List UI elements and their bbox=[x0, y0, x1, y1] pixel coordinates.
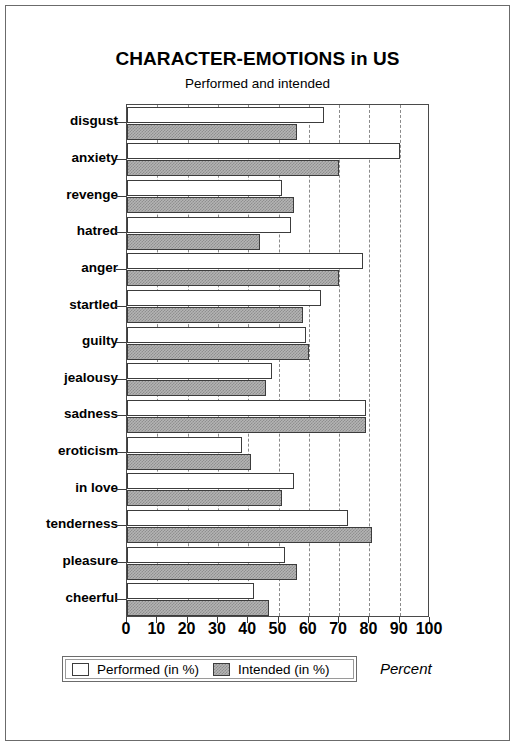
bar-intended bbox=[127, 197, 294, 213]
page-title: CHARACTER-EMOTIONS in US bbox=[0, 48, 515, 70]
category-label-startled: startled bbox=[8, 297, 118, 312]
category-label-anger: anger bbox=[8, 260, 118, 275]
legend-label: Performed (in %) bbox=[97, 662, 199, 677]
bar-performed bbox=[127, 437, 242, 453]
legend-inner: Performed (in %)Intended (in %) bbox=[65, 659, 354, 679]
x-axis-labels: 0102030405060708090100 bbox=[0, 620, 515, 646]
bar-performed bbox=[127, 253, 363, 269]
bar-intended bbox=[127, 490, 282, 506]
category-label-pleasure: pleasure bbox=[8, 553, 118, 568]
hatched-swatch bbox=[213, 663, 230, 676]
bar-intended bbox=[127, 124, 297, 140]
bar-performed bbox=[127, 143, 400, 159]
bar-performed bbox=[127, 290, 321, 306]
bar-intended bbox=[127, 417, 366, 433]
category-label-revenge: revenge bbox=[8, 187, 118, 202]
hollow-swatch bbox=[72, 663, 89, 676]
category-label-sadness: sadness bbox=[8, 406, 118, 421]
bar-performed bbox=[127, 510, 348, 526]
category-label-tenderness: tenderness bbox=[8, 516, 118, 531]
bar-performed bbox=[127, 107, 324, 123]
bar-performed bbox=[127, 327, 306, 343]
x-axis-title: Percent bbox=[380, 660, 432, 677]
category-axis: disgustanxietyrevengehatredangerstartled… bbox=[4, 104, 118, 617]
bar-intended bbox=[127, 234, 260, 250]
category-label-eroticism: eroticism bbox=[8, 443, 118, 458]
category-label-cheerful: cheerful bbox=[8, 590, 118, 605]
bar-intended bbox=[127, 454, 251, 470]
bar-performed bbox=[127, 363, 272, 379]
bar-intended bbox=[127, 307, 303, 323]
chart-subtitle: Performed and intended bbox=[0, 76, 515, 91]
bar-intended bbox=[127, 527, 372, 543]
bar-performed bbox=[127, 547, 285, 563]
bar-performed bbox=[127, 400, 366, 416]
bar-intended bbox=[127, 380, 266, 396]
category-label-jealousy: jealousy bbox=[8, 370, 118, 385]
x-tick-label: 100 bbox=[409, 620, 449, 638]
category-label-hatred: hatred bbox=[8, 223, 118, 238]
plot-area bbox=[126, 104, 429, 617]
legend-label: Intended (in %) bbox=[238, 662, 330, 677]
category-label-anxiety: anxiety bbox=[8, 150, 118, 165]
category-label-disgust: disgust bbox=[8, 113, 118, 128]
legend: Performed (in %)Intended (in %) bbox=[62, 656, 357, 682]
bar-performed bbox=[127, 583, 254, 599]
category-label-in-love: in love bbox=[8, 480, 118, 495]
bar-intended bbox=[127, 600, 269, 616]
legend-item: Intended (in %) bbox=[213, 662, 330, 677]
bar-performed bbox=[127, 473, 294, 489]
bar-intended bbox=[127, 270, 339, 286]
bar-series-container bbox=[127, 105, 428, 616]
legend-item: Performed (in %) bbox=[72, 662, 199, 677]
bar-performed bbox=[127, 180, 282, 196]
bar-intended bbox=[127, 160, 339, 176]
bar-intended bbox=[127, 344, 309, 360]
bar-performed bbox=[127, 217, 291, 233]
category-label-guilty: guilty bbox=[8, 333, 118, 348]
chart-page: CHARACTER-EMOTIONS in US Performed and i… bbox=[0, 0, 515, 746]
bar-intended bbox=[127, 564, 297, 580]
